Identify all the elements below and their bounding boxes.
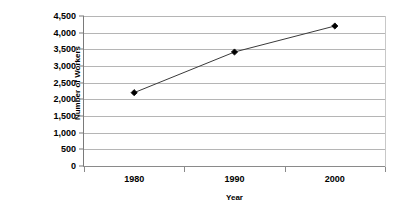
x-axis-tickmark [285, 167, 286, 172]
y-axis-tick-label: 2,000 [53, 94, 76, 104]
x-axis-tick-label: 1980 [124, 174, 144, 185]
x-axis-tick-labels: 198019902000 [84, 174, 385, 188]
series-line [134, 26, 335, 93]
x-axis-line [83, 166, 386, 167]
data-series [84, 16, 385, 166]
y-axis-line [83, 16, 84, 167]
y-axis-tick-label: 500 [61, 144, 76, 154]
x-axis-tick-label: 1990 [224, 174, 244, 185]
data-point-marker [332, 23, 338, 29]
line-chart: Number of Workers (in thousands) 05001,0… [0, 0, 399, 222]
y-axis-tick-label: 1,000 [53, 128, 76, 138]
y-axis-tick-label: 3,000 [53, 61, 76, 71]
y-axis-tick-label: 4,000 [53, 28, 76, 38]
y-axis-tick-labels: 05001,0001,5002,0002,5003,0003,5004,0004… [38, 0, 80, 166]
y-axis-tick-label: 2,500 [53, 78, 76, 88]
x-axis-tick-label: 2000 [325, 174, 345, 185]
x-axis-tickmark [84, 167, 85, 172]
data-point-marker [231, 49, 237, 55]
y-axis-tick-label: 1,500 [53, 111, 76, 121]
x-axis-tickmark [385, 167, 386, 172]
data-point-marker [131, 90, 137, 96]
x-axis-tickmark [184, 167, 185, 172]
x-axis-title: Year [84, 192, 385, 203]
plot-area [84, 16, 385, 166]
y-axis-tick-label: 4,500 [53, 11, 76, 21]
plot-right-edge [385, 16, 386, 167]
y-axis-tick-label: 0 [71, 161, 76, 171]
y-axis-tick-label: 3,500 [53, 44, 76, 54]
